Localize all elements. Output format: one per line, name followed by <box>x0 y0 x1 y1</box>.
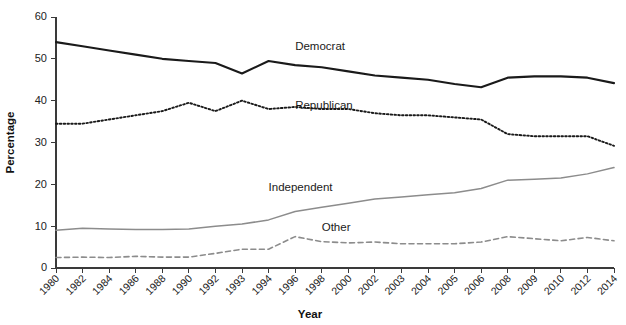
x-tick-label-2009: 2009 <box>515 272 540 297</box>
y-tick-label-0: 0 <box>41 261 47 273</box>
series-label-democrat: Democrat <box>295 40 346 52</box>
y-tick-label-50: 50 <box>35 52 47 64</box>
percentage-by-party-line-chart: 0102030405060198019821984198619881990199… <box>0 0 626 325</box>
series-label-republican: Republican <box>295 99 353 111</box>
x-tick-label-1990: 1990 <box>169 272 194 297</box>
x-tick-label-1980: 1980 <box>36 272 61 297</box>
x-tick-label-1996: 1996 <box>276 272 301 297</box>
x-tick-label-2003: 2003 <box>382 272 407 297</box>
x-axis-title: Year <box>298 308 323 320</box>
x-tick-label-1984: 1984 <box>90 272 115 297</box>
x-tick-label-1992: 1992 <box>196 272 221 297</box>
x-tick-label-2004: 2004 <box>408 272 433 297</box>
x-tick-label-1993: 1993 <box>222 272 247 297</box>
x-tick-label-2008: 2008 <box>488 272 513 297</box>
x-tick-label-2012: 2012 <box>568 272 593 297</box>
y-tick-label-30: 30 <box>35 136 47 148</box>
x-tick-label-2005: 2005 <box>435 272 460 297</box>
x-tick-label-1994: 1994 <box>249 272 274 297</box>
x-tick-label-1982: 1982 <box>63 272 88 297</box>
x-tick-label-2000: 2000 <box>329 272 354 297</box>
y-tick-label-40: 40 <box>35 94 47 106</box>
x-tick-label-2010: 2010 <box>541 272 566 297</box>
y-tick-label-20: 20 <box>35 178 47 190</box>
y-axis-title: Percentage <box>4 111 16 173</box>
y-tick-label-10: 10 <box>35 220 47 232</box>
x-tick-label-2002: 2002 <box>355 272 380 297</box>
x-tick-label-1998: 1998 <box>302 272 327 297</box>
chart-container: 0102030405060198019821984198619881990199… <box>0 0 626 325</box>
x-tick-label-1988: 1988 <box>143 272 168 297</box>
x-tick-label-2014: 2014 <box>594 272 619 297</box>
series-label-independent: Independent <box>269 181 334 193</box>
x-tick-label-1986: 1986 <box>116 272 141 297</box>
x-tick-label-2006: 2006 <box>462 272 487 297</box>
series-line-other <box>56 237 614 258</box>
y-tick-label-60: 60 <box>35 10 47 22</box>
series-label-other: Other <box>322 221 351 233</box>
